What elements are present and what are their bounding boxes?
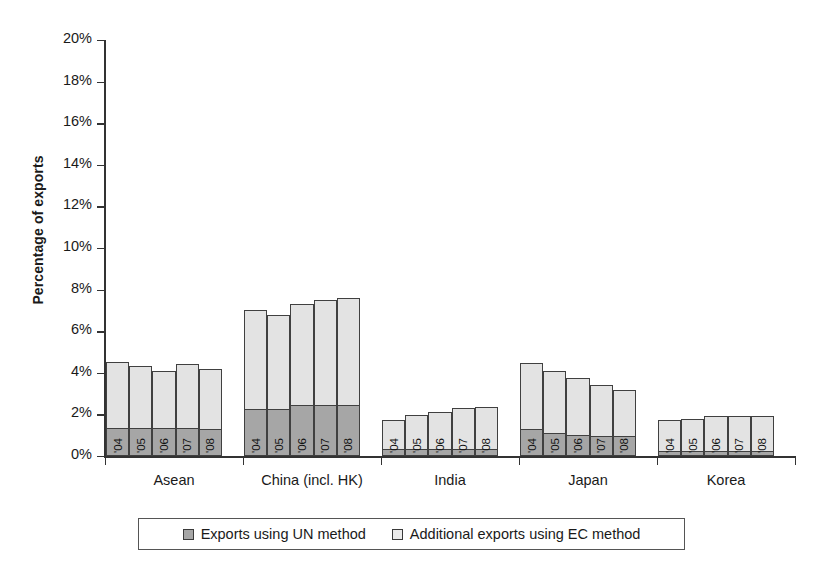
bar-year-label: '07 — [595, 438, 607, 453]
bar-year-label-wrap: '04 — [106, 419, 129, 453]
bar-year-label-wrap: '08 — [613, 419, 636, 453]
bar-year-label-wrap: '06 — [566, 419, 589, 453]
y-tick-7: 14% — [97, 165, 105, 166]
bar-asean-08: '08 — [199, 369, 222, 456]
x-tick-2 — [381, 456, 382, 465]
bar-year-label: '05 — [549, 438, 561, 453]
y-tick-2: 4% — [97, 373, 105, 374]
y-tick-10: 20% — [97, 40, 105, 41]
bar-india-06: '06 — [428, 412, 451, 456]
bar-year-label-wrap: '05 — [543, 419, 566, 453]
y-tick-label: 8% — [71, 280, 92, 296]
bar-year-label: '08 — [756, 438, 768, 453]
bar-india-04: '04 — [382, 420, 405, 456]
x-tick-end — [795, 456, 796, 465]
y-tick-label: 18% — [63, 72, 92, 88]
bar-year-label: '04 — [388, 438, 400, 453]
bar-china-incl-hk--06: '06 — [290, 304, 313, 456]
y-tick-3: 6% — [97, 331, 105, 332]
bar-japan-06: '06 — [566, 378, 589, 456]
bar-year-label-wrap: '04 — [244, 419, 267, 453]
bar-asean-05: '05 — [129, 366, 152, 456]
y-tick-label: 2% — [71, 404, 92, 420]
bar-china-incl-hk--05: '05 — [267, 315, 290, 456]
bar-year-label: '08 — [618, 438, 630, 453]
bar-year-label-wrap: '08 — [475, 419, 498, 453]
x-category-label-2: India — [381, 472, 519, 488]
x-category-label-4: Korea — [657, 472, 795, 488]
x-axis-line — [104, 456, 795, 458]
x-category-label-1: China (incl. HK) — [243, 472, 381, 488]
y-tick-label: 20% — [63, 30, 92, 46]
bar-year-label-wrap: '04 — [658, 419, 681, 453]
bar-china-incl-hk--08: '08 — [337, 298, 360, 456]
bar-year-label: '04 — [664, 438, 676, 453]
bar-year-label: '07 — [457, 438, 469, 453]
y-tick-label: 0% — [71, 446, 92, 462]
bar-year-label: '04 — [250, 438, 262, 453]
y-tick-8: 16% — [97, 123, 105, 124]
x-tick-4 — [657, 456, 658, 465]
legend-swatch-un-icon — [183, 529, 194, 540]
bar-china-incl-hk--04: '04 — [244, 310, 267, 456]
y-tick-label: 6% — [71, 321, 92, 337]
y-tick-1: 2% — [97, 414, 105, 415]
bar-year-label-wrap: '06 — [290, 419, 313, 453]
legend-item-un: Exports using UN method — [183, 526, 366, 542]
bar-year-label-wrap: '07 — [728, 419, 751, 453]
bar-year-label: '04 — [112, 438, 124, 453]
bar-year-label: '04 — [526, 438, 538, 453]
bar-japan-08: '08 — [613, 390, 636, 456]
bar-year-label: '05 — [135, 438, 147, 453]
bar-year-label: '06 — [296, 438, 308, 453]
bar-year-label: '05 — [411, 438, 423, 453]
bar-asean-04: '04 — [106, 362, 129, 456]
x-tick-0 — [105, 456, 106, 465]
y-tick-label: 16% — [63, 113, 92, 129]
legend-label-un: Exports using UN method — [201, 526, 366, 542]
bar-japan-04: '04 — [520, 363, 543, 456]
bar-year-label: '06 — [434, 438, 446, 453]
bar-year-label-wrap: '04 — [382, 419, 405, 453]
bar-year-label: '07 — [733, 438, 745, 453]
bar-year-label: '05 — [687, 438, 699, 453]
y-axis-title: Percentage of exports — [30, 110, 46, 350]
bar-year-label-wrap: '04 — [520, 419, 543, 453]
x-tick-3 — [519, 456, 520, 465]
bar-year-label-wrap: '07 — [314, 419, 337, 453]
bar-year-label-wrap: '08 — [199, 419, 222, 453]
bar-china-incl-hk--07: '07 — [314, 300, 337, 456]
bar-year-label-wrap: '06 — [428, 419, 451, 453]
bar-year-label: '08 — [342, 438, 354, 453]
bar-year-label-wrap: '05 — [129, 419, 152, 453]
bar-korea-06: '06 — [704, 416, 727, 456]
x-category-label-0: Asean — [105, 472, 243, 488]
bar-japan-07: '07 — [590, 385, 613, 456]
bar-korea-04: '04 — [658, 420, 681, 456]
bar-year-label-wrap: '05 — [681, 419, 704, 453]
bar-year-label-wrap: '08 — [337, 419, 360, 453]
bar-japan-05: '05 — [543, 371, 566, 456]
bar-year-label-wrap: '05 — [267, 419, 290, 453]
bar-india-08: '08 — [475, 407, 498, 456]
y-tick-label: 14% — [63, 155, 92, 171]
chart-container: Percentage of exports 0%2%4%6%8%10%12%14… — [0, 0, 813, 574]
bar-korea-05: '05 — [681, 419, 704, 456]
legend-item-ec: Additional exports using EC method — [392, 526, 641, 542]
y-tick-label: 4% — [71, 363, 92, 379]
y-tick-9: 18% — [97, 82, 105, 83]
y-tick-label: 10% — [63, 238, 92, 254]
legend-swatch-ec-icon — [392, 529, 403, 540]
bar-year-label-wrap: '07 — [590, 419, 613, 453]
bar-year-label-wrap: '05 — [405, 419, 428, 453]
bar-asean-07: '07 — [176, 364, 199, 456]
bar-korea-08: '08 — [751, 416, 774, 456]
bar-year-label: '06 — [710, 438, 722, 453]
legend-label-ec: Additional exports using EC method — [410, 526, 641, 542]
x-category-label-3: Japan — [519, 472, 657, 488]
bar-year-label: '08 — [204, 438, 216, 453]
chart-legend: Exports using UN method Additional expor… — [138, 518, 685, 550]
bar-year-label: '06 — [158, 438, 170, 453]
bar-year-label-wrap: '07 — [176, 419, 199, 453]
bar-year-label: '05 — [273, 438, 285, 453]
